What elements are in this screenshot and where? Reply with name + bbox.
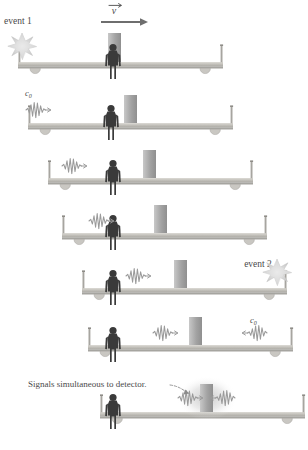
velocity-arrow-head <box>140 18 148 26</box>
starburst-icon <box>263 259 292 286</box>
observer-figure <box>103 105 119 140</box>
observer-figure <box>105 270 121 305</box>
frame-4-wave-reaches-observer: event 2 <box>62 205 272 269</box>
frame-5-wave <box>126 269 151 284</box>
detector-block <box>189 317 202 345</box>
velocity-label: v <box>112 5 117 16</box>
detector-block <box>143 150 156 178</box>
frame-6-wave-left <box>242 326 267 341</box>
c0-label-left: c0 <box>25 88 32 99</box>
frame-2-person <box>103 105 119 140</box>
signals-caption: Signals simultaneous to detector. <box>28 379 147 389</box>
observer-figure <box>105 160 121 195</box>
physics-diagram-svg: v event 1 c0 <box>0 0 308 450</box>
detector-block <box>174 260 187 288</box>
event-1-label: event 1 <box>4 16 32 26</box>
frame-5-person <box>105 270 121 305</box>
c0-label-right: c0 <box>250 315 257 326</box>
frame-1-emission: v event 1 <box>4 4 223 79</box>
observer-figure <box>105 327 121 362</box>
light-wave-leftward <box>242 326 267 341</box>
light-wave-rightward <box>126 269 151 284</box>
light-wave-rightward <box>153 326 178 341</box>
detector-block <box>124 95 137 123</box>
velocity-arrow-group: v <box>101 4 148 26</box>
frame-6-person <box>105 327 121 362</box>
frame-6-two-waves-converging: c0 <box>88 315 293 362</box>
frame-7-signals-meet: Signals simultaneous to detector. <box>28 376 305 429</box>
frame-6-wave-right <box>153 326 178 341</box>
observer-figure <box>105 394 121 429</box>
frame-5-starburst-event2 <box>263 259 292 286</box>
diagram-canvas: v event 1 c0 <box>0 0 308 450</box>
detector-block <box>154 205 167 233</box>
frame-3-person <box>105 160 121 195</box>
frame-2-wave-left-start: c0 <box>25 88 233 140</box>
starburst-icon <box>8 33 37 60</box>
frame-3-wave <box>62 159 87 174</box>
frame-3-wave-travel <box>48 150 253 195</box>
frame-1-starburst-event1 <box>8 33 37 60</box>
frame-7-person <box>105 394 121 429</box>
light-wave-rightward <box>62 159 87 174</box>
